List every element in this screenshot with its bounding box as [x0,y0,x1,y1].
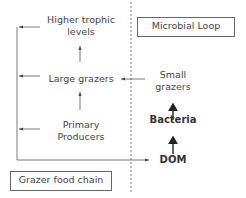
grazer-food-chain-title-box: Grazer food chain [10,171,112,191]
node-small-line2: grazers [148,81,198,93]
node-higher-trophic-levels: Higher trophic levels [45,14,117,38]
node-small-grazers: Small grazers [148,69,198,93]
node-small-line1: Small [148,69,198,81]
node-primary-producers: Primary Producers [45,119,117,143]
node-primary-line2: Producers [45,131,117,143]
node-primary-line1: Primary [45,119,117,131]
node-large-grazers: Large grazers [45,73,117,85]
microbial-loop-title-box: Microbial Loop [137,17,235,37]
node-higher-line1: Higher trophic [45,14,117,26]
node-dom: DOM [148,154,198,166]
node-bacteria: Bacteria [148,114,198,126]
node-higher-line2: levels [45,26,117,38]
